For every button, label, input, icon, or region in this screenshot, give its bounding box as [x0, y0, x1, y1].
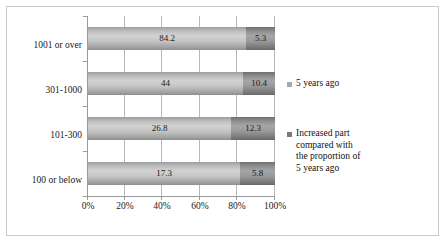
bar-segment-increase[interactable]: 5.8	[240, 162, 275, 185]
y-tick-2	[83, 106, 87, 107]
y-tick-1	[83, 61, 87, 62]
bar-segment-base[interactable]: 26.8	[88, 117, 231, 140]
bar-segment-base[interactable]: 17.3	[88, 162, 240, 185]
x-tick-0	[87, 196, 88, 200]
bar-value-label: 17.3	[156, 169, 172, 178]
bar-value-label: 5.8	[252, 169, 263, 178]
bar-value-label: 5.3	[255, 34, 266, 43]
bar-value-label: 44	[161, 79, 170, 88]
x-axis-label-60: 60%	[191, 201, 208, 211]
x-axis-label-40: 40%	[153, 201, 170, 211]
y-axis-label-1001-or-over: 1001 or over	[4, 40, 82, 50]
legend-item-5-years-ago[interactable]: 5 years ago	[287, 78, 339, 90]
x-axis-line	[87, 196, 275, 197]
y-axis-label-101-300: 101-300	[4, 130, 82, 140]
x-axis-label-20: 20%	[116, 201, 133, 211]
x-tick-100	[274, 196, 275, 200]
bar-segment-increase[interactable]: 10.4	[243, 72, 275, 95]
bar-segment-increase[interactable]: 5.3	[246, 27, 275, 50]
legend-swatch-icon	[287, 132, 292, 137]
y-axis-label-100-or-below: 100 or below	[4, 175, 82, 185]
x-tick-40	[161, 196, 162, 200]
y-tick-0	[83, 16, 87, 17]
bar-value-label: 26.8	[152, 124, 168, 133]
bar-segment-increase[interactable]: 12.3	[231, 117, 275, 140]
bar-value-label: 10.4	[251, 79, 267, 88]
legend-item-increased-part[interactable]: Increased part compared with the proport…	[287, 128, 360, 174]
legend-swatch-icon	[287, 82, 292, 87]
x-tick-80	[236, 196, 237, 200]
bar-segment-base[interactable]: 84.2	[88, 27, 246, 50]
x-axis-label-100: 100%	[264, 201, 286, 211]
x-axis-label-80: 80%	[228, 201, 245, 211]
x-tick-60	[199, 196, 200, 200]
y-tick-3	[83, 151, 87, 152]
legend-label: 5 years ago	[296, 78, 339, 90]
x-axis-label-0: 0%	[82, 201, 95, 211]
bar-segment-base[interactable]: 44	[88, 72, 243, 95]
y-axis-label-301-1000: 301-1000	[4, 85, 82, 95]
bar-value-label: 12.3	[245, 124, 261, 133]
x-tick-20	[124, 196, 125, 200]
plot-area: 84.2 5.3 44 10.4 26.8 12.3	[87, 16, 275, 196]
legend-label: Increased part compared with the proport…	[296, 128, 360, 174]
chart-container: 1001 or over 301-1000 101-300 100 or bel…	[0, 0, 446, 243]
bar-value-label: 84.2	[159, 34, 175, 43]
